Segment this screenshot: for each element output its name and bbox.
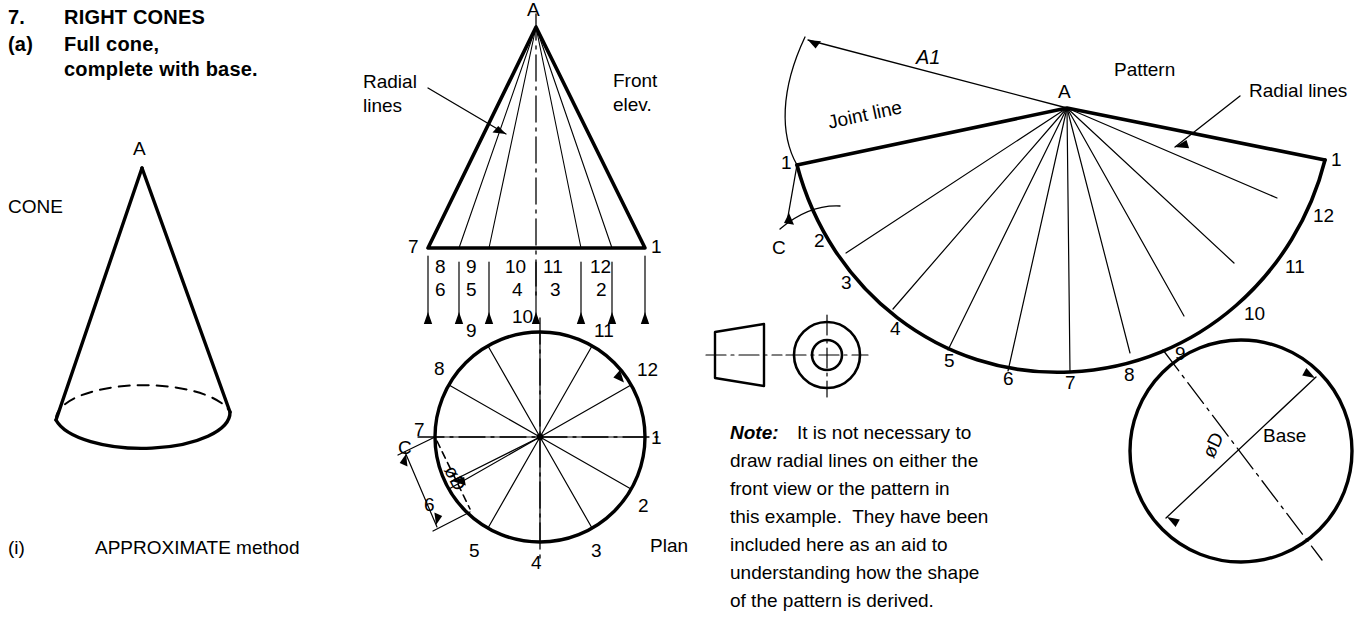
note-line-3: front view or the pattern in [730, 476, 950, 501]
front-elev-top-number-9: 9 [466, 256, 477, 278]
plan-point-3: 3 [591, 540, 602, 562]
base-centreline [1163, 350, 1322, 560]
front-elev-top-number-12: 12 [590, 256, 611, 278]
plan-point-5: 5 [469, 540, 480, 562]
front-elev-top-number-11: 11 [543, 256, 563, 278]
pattern-arc-number-4: 4 [890, 318, 901, 340]
front-elev-base-number-left: 7 [408, 236, 419, 258]
pattern-outline [797, 108, 1325, 372]
plan-point-8: 8 [434, 358, 445, 380]
plan-point-6: 6 [424, 494, 435, 516]
plan-point-9: 9 [466, 320, 477, 342]
plan-point-2: 2 [638, 495, 649, 517]
radial-lines-label-front-2: lines [363, 95, 402, 117]
pattern-arc-number-2: 2 [814, 230, 825, 252]
pattern-slant-arc [785, 37, 805, 165]
pattern-apex-label: A [1058, 81, 1071, 103]
pattern-view-label: Pattern [1114, 59, 1175, 81]
pattern-arc-number-6: 6 [1003, 368, 1014, 390]
projection-lines [428, 256, 645, 322]
note-line-2: draw radial lines on either the [730, 448, 978, 473]
note-line-6: understanding how the shape [730, 560, 979, 585]
pattern-arc-number-3: 3 [841, 272, 852, 294]
pictorial-caption: CONE [8, 196, 63, 218]
plan-point-1: 1 [651, 427, 662, 449]
front-elevation-label-2: elev. [613, 94, 652, 116]
pattern-arc-number-11: 11 [1285, 256, 1305, 278]
pattern-radial-lines [846, 108, 1277, 372]
pictorial-cone-graphic [56, 168, 230, 448]
pattern-point-1-left: 1 [781, 152, 792, 174]
note-prefix: Note: [730, 420, 779, 445]
front-elev-bot-number-6: 6 [435, 279, 446, 301]
front-elev-bot-number-3: 3 [550, 279, 561, 301]
front-elev-bot-number-4: 4 [512, 279, 523, 301]
plan-point-4: 4 [531, 552, 542, 574]
drawing-sheet: 7. RIGHT CONES (a) Full cone, complete w… [0, 0, 1355, 623]
note-line-5: included here as an aid to [730, 532, 948, 557]
pattern-arc-number-8: 8 [1124, 364, 1135, 386]
radial-lines-label-pattern: Radial lines [1249, 80, 1347, 102]
pattern-arc-number-7: 7 [1065, 372, 1076, 394]
heading-number: 7. [8, 6, 25, 29]
page-title: RIGHT CONES [64, 6, 205, 29]
front-elevation-apex-label: A [527, 0, 540, 21]
plan-point-11: 11 [594, 320, 614, 342]
heading-sub-line-1: Full cone, [64, 33, 159, 56]
front-elev-top-number-8: 8 [435, 256, 446, 278]
technical-drawing-canvas [0, 0, 1355, 623]
heading-sub-line-2: complete with base. [64, 58, 258, 81]
plan-point-10: 10 [512, 306, 533, 328]
pattern-point-1-right: 1 [1331, 149, 1342, 171]
pictorial-apex-label: A [133, 138, 146, 160]
front-elev-top-number-10: 10 [505, 256, 526, 278]
method-marker: (i) [8, 537, 25, 559]
front-elev-bot-number-2: 2 [596, 279, 607, 301]
pattern-slant-dim-label: A1 [916, 46, 940, 69]
base-diameter-dimension [1166, 377, 1316, 518]
front-elev-base-number-right: 1 [651, 236, 662, 258]
front-elev-bot-number-5: 5 [466, 279, 477, 301]
plan-chord-dimension-label: C [398, 437, 412, 459]
projection-arrowheads [424, 312, 649, 324]
pattern-arc-number-12: 12 [1313, 205, 1334, 227]
pattern-arc-number-9: 9 [1175, 343, 1186, 365]
heading-sub-marker: (a) [8, 33, 33, 56]
pattern-arc-number-10: 10 [1244, 303, 1265, 325]
pattern-chord-dim-label: C [772, 237, 786, 259]
base-label: Base [1263, 425, 1306, 447]
method-label: APPROXIMATE method [95, 537, 300, 559]
note-line-4: this example. They have been [730, 504, 988, 529]
plan-point-7: 7 [414, 419, 425, 441]
front-elevation-label-1: Front [613, 70, 657, 92]
pictorial-cone-hidden-edge [56, 385, 230, 420]
base-circle [1130, 340, 1352, 562]
radial-lines-label-front-1: Radial [363, 71, 417, 93]
note-line-7: of the pattern is derived. [730, 588, 934, 613]
plan-view-label: Plan [650, 535, 688, 557]
note-line-1: It is not necessary to [797, 420, 971, 445]
pattern-slant-arrowhead [808, 40, 821, 49]
pattern-arc-number-5: 5 [944, 350, 955, 372]
plan-point-12: 12 [637, 359, 658, 381]
